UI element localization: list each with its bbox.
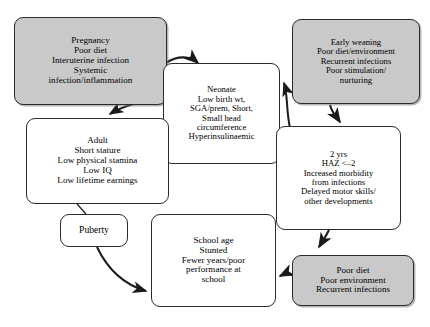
node-early-weaning[interactable]: Early weaning Poor diet/environment Recu… [292, 19, 420, 104]
node-adult-line-5: Low lifetime earnings [57, 176, 137, 186]
edge-school-age-to-puberty [97, 247, 146, 291]
node-school-age[interactable]: School age Stunted Fewer years/poor perf… [151, 214, 276, 307]
node-poor-diet-line-3: Recurrent infections [316, 285, 390, 295]
node-two-years-line-6: other developments [304, 197, 372, 206]
node-adult[interactable]: Adult Short stature Low physical stamina… [26, 118, 169, 204]
edge-puberty-to-adult [77, 204, 86, 214]
node-puberty-label: Puberty [79, 225, 109, 235]
node-pregnancy-line-5: infection/inflammation [49, 76, 133, 86]
node-pregnancy[interactable]: Pregnancy Poor diet Interuterine infecti… [14, 17, 167, 105]
edge-two-years-to-neonate [284, 83, 290, 128]
node-poor-diet[interactable]: Poor diet Poor environment Recurrent inf… [292, 255, 414, 306]
edge-two-years-to-school-age [319, 230, 329, 247]
edge-poor-diet-to-school-age [280, 274, 292, 276]
edge-early-weaning-to-two-years [330, 105, 340, 122]
node-neonate-line-6: Hyperinsulinaemic [188, 132, 254, 141]
node-early-weaning-line-5: nurturing [340, 76, 372, 85]
diagram-canvas: Pregnancy Poor diet Interuterine infecti… [0, 0, 430, 327]
node-neonate[interactable]: Neonate Low birth wt, SGA/prem, Short, S… [163, 63, 280, 164]
node-two-years[interactable]: 2 yrs HAZ <–2 Increased morbidity from i… [276, 126, 401, 230]
node-puberty[interactable]: Puberty [60, 214, 128, 247]
node-school-age-line-5: school [202, 275, 226, 285]
